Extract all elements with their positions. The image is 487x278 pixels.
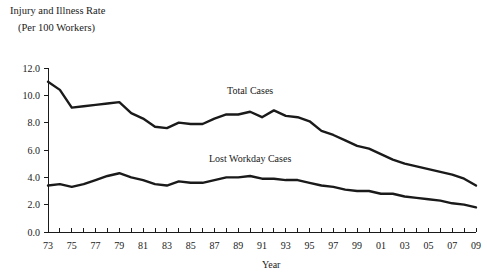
x-tick-label: 99 [352,240,362,251]
x-tick-label: 77 [91,240,101,251]
y-tick-label: 12.0 [23,63,41,74]
x-axis-ticks: 73757779818385878991939597990103050709 [43,228,481,251]
series-label-total-cases: Total Cases [227,85,273,96]
chart-title: Injury and Illness Rate [10,5,106,16]
injury-illness-rate-chart: Injury and Illness Rate (Per 100 Workers… [0,0,487,278]
series-label-lost-workday-cases: Lost Workday Cases [209,153,291,164]
y-tick-label: 4.0 [28,172,41,183]
x-tick-label: 79 [114,240,124,251]
y-axis: 0.02.04.06.08.010.012.0 [23,63,49,238]
x-tick-label: 89 [233,240,243,251]
y-tick-label: 6.0 [28,145,41,156]
x-tick-label: 09 [471,240,481,251]
x-tick-label: 93 [281,240,291,251]
y-tick-label: 2.0 [28,199,41,210]
y-axis-ticks: 0.02.04.06.08.010.012.0 [23,63,49,238]
series-line-lost-workday-cases [48,173,476,207]
chart-subtitle: (Per 100 Workers) [18,22,96,34]
x-tick-label: 05 [423,240,433,251]
x-tick-label: 95 [305,240,315,251]
y-tick-label: 0.0 [28,227,41,238]
series-annotations: Total CasesLost Workday Cases [209,85,291,164]
x-tick-label: 75 [67,240,77,251]
x-tick-label: 97 [328,240,338,251]
x-tick-label: 73 [43,240,53,251]
x-tick-label: 81 [138,240,148,251]
x-axis-label: Year [262,259,281,270]
chart-canvas: Injury and Illness Rate (Per 100 Workers… [0,0,487,278]
x-tick-label: 03 [400,240,410,251]
x-axis: 73757779818385878991939597990103050709 [43,228,481,251]
x-tick-label: 87 [209,240,219,251]
y-tick-label: 10.0 [23,90,41,101]
x-tick-label: 07 [447,240,457,251]
series-line-total-cases [48,82,476,186]
x-tick-label: 83 [162,240,172,251]
x-tick-label: 91 [257,240,267,251]
x-tick-label: 01 [376,240,386,251]
series-lines [48,82,476,208]
x-tick-label: 85 [186,240,196,251]
y-tick-label: 8.0 [28,117,41,128]
